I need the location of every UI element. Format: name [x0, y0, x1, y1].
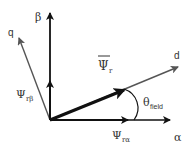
- svg-text:field: field: [150, 103, 163, 110]
- beta-axis-label: β: [35, 11, 41, 24]
- svg-text:Ψ: Ψ: [16, 88, 26, 101]
- theta-field-arc: [124, 89, 138, 120]
- theta-field-label: θ field: [143, 96, 163, 110]
- alpha-axis-label: α: [174, 131, 182, 144]
- svg-text:rβ: rβ: [26, 95, 33, 103]
- svg-text:rα: rα: [122, 136, 130, 144]
- svg-text:r: r: [109, 67, 113, 75]
- q-axis-label: q: [8, 27, 14, 38]
- svg-text:θ: θ: [143, 96, 150, 109]
- svg-text:Ψ: Ψ: [112, 129, 122, 142]
- svg-text:Ψ: Ψ: [98, 59, 109, 73]
- q-axis: [19, 38, 50, 120]
- d-axis-label: d: [174, 50, 180, 61]
- rotor-flux-alpha-label: Ψ rα: [112, 129, 130, 144]
- rotor-flux-label: Ψ r: [98, 56, 113, 75]
- flux-vector-diagram: β q d α Ψ r Ψ rβ Ψ rα θ field: [0, 0, 190, 149]
- rotor-flux-vector: [50, 90, 124, 120]
- rotor-flux-beta-label: Ψ rβ: [16, 88, 33, 103]
